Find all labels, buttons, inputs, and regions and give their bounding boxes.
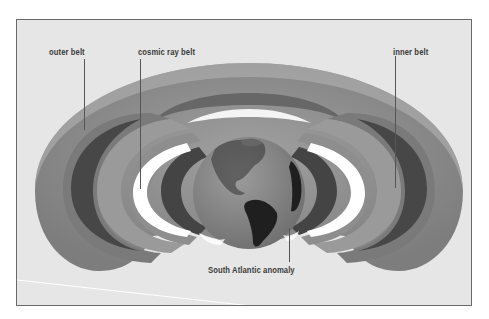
label-inner-belt: inner belt (393, 47, 428, 57)
label-cosmic-ray-belt: cosmic ray belt (138, 47, 195, 57)
scan-line (17, 280, 261, 306)
leader-cosmic-ray-belt (140, 59, 141, 189)
radiation-belts-illustration (17, 20, 472, 306)
leader-outer-belt (84, 59, 85, 130)
label-south-atlantic-anomaly: South Atlantic anomaly (208, 265, 295, 275)
leader-inner-belt (395, 56, 396, 188)
label-outer-belt: outer belt (49, 47, 85, 57)
leader-south-atlantic-anomaly (289, 228, 290, 262)
